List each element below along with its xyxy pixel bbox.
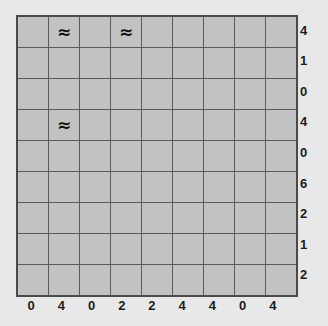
row-label-5: 0 <box>292 137 324 168</box>
grid-cell-r5-c7[interactable] <box>204 141 235 172</box>
row-label-4: 4 <box>292 107 324 138</box>
grid-cell-r1-c7[interactable] <box>204 16 235 48</box>
grid-cell-r4-c5[interactable] <box>142 110 173 141</box>
grid-cell-r5-c8[interactable] <box>235 141 266 172</box>
row-label-1: 4 <box>292 15 324 46</box>
grid-row <box>17 172 297 203</box>
grid-cell-r5-c3[interactable] <box>80 141 111 172</box>
grid-cell-r3-c8[interactable] <box>235 79 266 110</box>
grid-cell-r3-c1[interactable] <box>17 79 49 110</box>
grid-cell-r4-c7[interactable] <box>204 110 235 141</box>
grid-cell-r1-c5[interactable] <box>142 16 173 48</box>
grid-cell-r7-c4[interactable] <box>111 203 142 234</box>
grid-cell-r5-c6[interactable] <box>173 141 204 172</box>
grid-cell-r7-c6[interactable] <box>173 203 204 234</box>
puzzle-grid-panel: · · ≈≈≈ 410406212 040224404 <box>0 0 328 326</box>
grid-row <box>17 79 297 110</box>
grid-cell-r5-c5[interactable] <box>142 141 173 172</box>
grid-cell-r5-c2[interactable] <box>49 141 80 172</box>
row-label-9: 2 <box>292 260 324 291</box>
grid-cell-r6-c7[interactable] <box>204 172 235 203</box>
grid-cell-r8-c4[interactable] <box>111 234 142 265</box>
row-label-8: 1 <box>292 229 324 260</box>
grid-cell-r7-c7[interactable] <box>204 203 235 234</box>
grid-cell-r4-c1[interactable] <box>17 110 49 141</box>
grid-row: ≈ <box>17 110 297 141</box>
grid-cell-r6-c6[interactable] <box>173 172 204 203</box>
column-label-row: 040224404 <box>16 292 288 318</box>
grid-cell-r8-c8[interactable] <box>235 234 266 265</box>
column-label-4: 2 <box>107 292 137 318</box>
row-label-7: 2 <box>292 198 324 229</box>
grid-cell-r4-c2[interactable]: ≈ <box>49 110 80 141</box>
grid-cell-r3-c5[interactable] <box>142 79 173 110</box>
column-label-1: 0 <box>16 292 46 318</box>
grid-cell-r4-c3[interactable] <box>80 110 111 141</box>
grid-cell-r2-c7[interactable] <box>204 48 235 79</box>
grid-cell-r3-c2[interactable] <box>49 79 80 110</box>
grid-row <box>17 48 297 79</box>
grid-cell-r8-c6[interactable] <box>173 234 204 265</box>
grid-cell-r1-c6[interactable] <box>173 16 204 48</box>
column-label-7: 4 <box>197 292 227 318</box>
grid-cell-r2-c4[interactable] <box>111 48 142 79</box>
grid-cell-r6-c3[interactable] <box>80 172 111 203</box>
grid-cell-r5-c4[interactable] <box>111 141 142 172</box>
column-label-2: 4 <box>46 292 76 318</box>
grid-cell-r4-c8[interactable] <box>235 110 266 141</box>
row-label-2: 1 <box>292 46 324 77</box>
grid-cell-r3-c7[interactable] <box>204 79 235 110</box>
grid-cell-r2-c6[interactable] <box>173 48 204 79</box>
grid-cell-r6-c1[interactable] <box>17 172 49 203</box>
clipped-caption: · · <box>0 0 328 2</box>
grid-cell-r1-c8[interactable] <box>235 16 266 48</box>
grid-cell-r2-c8[interactable] <box>235 48 266 79</box>
almost-equal-icon: ≈ <box>49 117 79 134</box>
grid-body: ≈≈≈ <box>17 16 297 296</box>
grid-row <box>17 234 297 265</box>
grid-cell-r7-c8[interactable] <box>235 203 266 234</box>
grid-container: ≈≈≈ <box>16 15 288 290</box>
grid-cell-r7-c2[interactable] <box>49 203 80 234</box>
column-label-9: 4 <box>258 292 288 318</box>
grid-cell-r1-c2[interactable]: ≈ <box>49 16 80 48</box>
grid-cell-r8-c1[interactable] <box>17 234 49 265</box>
column-label-6: 4 <box>167 292 197 318</box>
grid-cell-r2-c2[interactable] <box>49 48 80 79</box>
grid-cell-r8-c5[interactable] <box>142 234 173 265</box>
grid-cell-r6-c2[interactable] <box>49 172 80 203</box>
grid-row: ≈≈ <box>17 16 297 48</box>
grid-cell-r6-c8[interactable] <box>235 172 266 203</box>
grid-cell-r1-c3[interactable] <box>80 16 111 48</box>
grid-cell-r2-c3[interactable] <box>80 48 111 79</box>
grid-cell-r8-c7[interactable] <box>204 234 235 265</box>
puzzle-grid[interactable]: ≈≈≈ <box>16 15 298 297</box>
grid-cell-r4-c6[interactable] <box>173 110 204 141</box>
grid-row <box>17 203 297 234</box>
grid-cell-r1-c4[interactable]: ≈ <box>111 16 142 48</box>
grid-cell-r1-c1[interactable] <box>17 16 49 48</box>
column-label-3: 0 <box>76 292 106 318</box>
grid-cell-r7-c5[interactable] <box>142 203 173 234</box>
grid-cell-r6-c4[interactable] <box>111 172 142 203</box>
row-label-3: 0 <box>292 76 324 107</box>
grid-cell-r3-c3[interactable] <box>80 79 111 110</box>
column-label-5: 2 <box>137 292 167 318</box>
grid-cell-r3-c6[interactable] <box>173 79 204 110</box>
grid-cell-r6-c5[interactable] <box>142 172 173 203</box>
almost-equal-icon: ≈ <box>111 24 141 41</box>
grid-cell-r7-c3[interactable] <box>80 203 111 234</box>
grid-cell-r5-c1[interactable] <box>17 141 49 172</box>
row-label-6: 6 <box>292 168 324 199</box>
grid-cell-r2-c5[interactable] <box>142 48 173 79</box>
grid-cell-r8-c2[interactable] <box>49 234 80 265</box>
grid-cell-r3-c4[interactable] <box>111 79 142 110</box>
almost-equal-icon: ≈ <box>49 24 79 41</box>
row-label-column: 410406212 <box>292 15 324 290</box>
grid-cell-r8-c3[interactable] <box>80 234 111 265</box>
grid-cell-r7-c1[interactable] <box>17 203 49 234</box>
column-label-8: 0 <box>228 292 258 318</box>
grid-row <box>17 141 297 172</box>
grid-cell-r2-c1[interactable] <box>17 48 49 79</box>
grid-cell-r4-c4[interactable] <box>111 110 142 141</box>
